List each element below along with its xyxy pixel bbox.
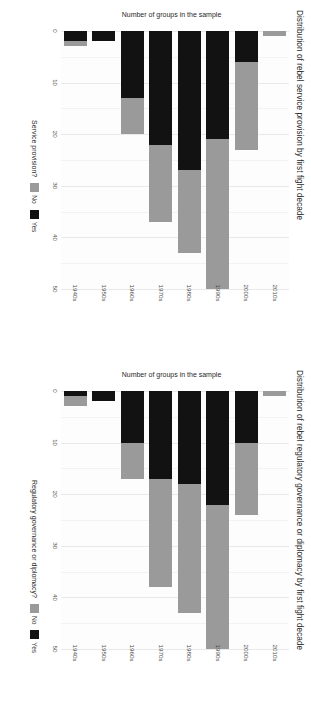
legend: Regulatory governance or diplomacy? No Y… [30,480,39,653]
y-axis: Number of groups in the sample [61,360,289,391]
y-axis-tick-label: 10 [52,439,59,446]
legend-item-no[interactable]: No [30,183,39,203]
y-axis-title: Number of groups in the sample [72,11,272,18]
x-axis-tick-label: 1950s [101,645,108,662]
y-axis-tick-label: 30 [52,182,59,189]
legend-label-yes: Yes [31,222,38,233]
legend-label-no: No [31,195,38,203]
x-axis-tick-label: 2000s [243,645,250,662]
y-axis-tick-label: 40 [52,234,59,241]
plot-area-regulatory-governance [61,391,289,649]
bar-group [61,31,289,289]
legend-swatch-yes-icon [30,210,39,219]
y-axis-title: Number of groups in the sample [72,371,272,378]
x-axis-tick-label: 1990s [215,645,222,662]
bar-row[interactable] [235,31,258,289]
x-axis-tick-label: 1970s [158,645,165,662]
bar-segment-no[interactable] [263,31,286,36]
figure-stage: Distribution of rebel service provision … [0,0,311,720]
bar-row[interactable] [149,31,172,289]
bar-row[interactable] [64,391,87,649]
bar-segment-no[interactable] [149,145,172,222]
bar-segment-yes[interactable] [149,391,172,479]
bar-row[interactable] [92,391,115,649]
bar-row[interactable] [263,31,286,289]
bar-row[interactable] [263,391,286,649]
category-axis-strip: 1940s1950s1960s1970s1980s1990s2000s2010s [0,649,311,697]
legend-item-yes[interactable]: Yes [30,210,39,233]
legend-title: Service provision? [31,120,38,177]
x-axis-tick-label: 1960s [129,285,136,302]
bar-segment-no[interactable] [178,484,201,613]
bar-group [61,391,289,649]
bar-segment-yes[interactable] [178,31,201,170]
bar-segment-no[interactable] [121,443,144,479]
bar-row[interactable] [178,31,201,289]
bar-segment-yes[interactable] [235,391,258,443]
bar-row[interactable] [149,391,172,649]
y-axis-tick-label: 30 [52,542,59,549]
bar-segment-yes[interactable] [206,31,229,139]
bar-row[interactable] [121,31,144,289]
bar-segment-no[interactable] [206,139,229,289]
bar-row[interactable] [206,31,229,289]
bar-row[interactable] [178,391,201,649]
bar-segment-no[interactable] [64,41,87,46]
x-axis-tick-label: 1980s [186,285,193,302]
bar-segment-yes[interactable] [178,391,201,484]
bar-row[interactable] [64,31,87,289]
y-axis: Number of groups in the sample [61,0,289,31]
x-axis-tick-label: 1940s [72,285,79,302]
x-axis-tick-label: 2000s [243,285,250,302]
chart-panel-regulatory-governance: Distribution of rebel regulatory governa… [0,360,311,720]
x-axis-tick-label: 1990s [215,285,222,302]
bar-segment-yes[interactable] [149,31,172,145]
legend-label-no: No [31,616,38,624]
plot-area-service-provision [61,31,289,289]
bar-segment-yes[interactable] [121,391,144,443]
x-axis-tick-label: 1980s [186,645,193,662]
bar-segment-yes[interactable] [64,31,87,41]
x-axis-tick-label: 1940s [72,645,79,662]
legend-item-no[interactable]: No [30,604,39,624]
legend: Service provision? No Yes [30,120,39,232]
x-axis-tick-label: 2010s [272,645,279,662]
chart-panel-service-provision: Distribution of rebel service provision … [0,0,311,360]
legend-swatch-no-icon [30,604,39,613]
bar-segment-yes[interactable] [235,31,258,62]
bar-segment-no[interactable] [178,170,201,253]
bar-segment-no[interactable] [64,396,87,406]
bar-segment-yes[interactable] [92,31,115,41]
legend-swatch-no-icon [30,183,39,192]
bar-row[interactable] [235,391,258,649]
y-axis-tick-label: 0 [52,389,59,392]
y-axis-tick-label: 10 [52,79,59,86]
bar-row[interactable] [92,31,115,289]
x-axis-tick-label: 1970s [158,285,165,302]
x-axis-tick-label: 2010s [272,285,279,302]
y-axis-tick-label: 20 [52,131,59,138]
bar-segment-no[interactable] [235,443,258,515]
bar-segment-yes[interactable] [92,391,115,401]
bar-segment-no[interactable] [149,479,172,587]
legend-swatch-yes-icon [30,630,39,639]
bar-row[interactable] [206,391,229,649]
bar-segment-no[interactable] [206,505,229,649]
y-axis-tick-label: 0 [52,29,59,32]
bar-segment-no[interactable] [235,62,258,150]
category-axis-strip: 1940s1950s1960s1970s1980s1990s2000s2010s [0,289,311,337]
bar-segment-no[interactable] [121,98,144,134]
x-axis-tick-label: 1950s [101,285,108,302]
bar-segment-yes[interactable] [121,31,144,98]
bar-segment-yes[interactable] [206,391,229,505]
legend-title: Regulatory governance or diplomacy? [31,480,38,598]
bar-segment-no[interactable] [263,391,286,396]
x-axis-tick-label: 1960s [129,645,136,662]
bar-row[interactable] [121,391,144,649]
y-axis-tick-label: 20 [52,491,59,498]
y-axis-tick-label: 40 [52,594,59,601]
